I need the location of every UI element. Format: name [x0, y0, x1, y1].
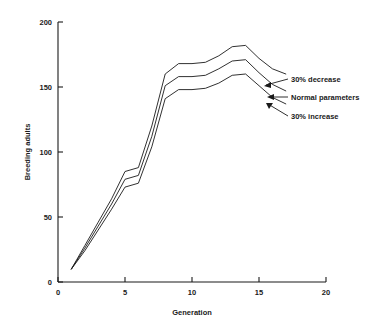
annotation-normal-parameters: Normal parameters: [267, 93, 359, 102]
y-axis-ticks: [58, 22, 63, 282]
axis-lines: [58, 22, 326, 282]
annotation-label-30-increase: 30% increase: [291, 112, 339, 121]
series-line-30-increase: [71, 74, 285, 269]
y-axis-title: Breeding adults: [23, 124, 32, 181]
x-axis-tick-labels: 0 5 10 15 20: [56, 288, 330, 297]
annotation-label-30-decrease: 30% decrease: [291, 75, 341, 84]
leader-arrow-normal: [267, 94, 274, 100]
y-tick-label-200: 200: [39, 18, 52, 27]
x-axis-ticks: [58, 277, 326, 282]
x-tick-label-10: 10: [188, 288, 196, 297]
y-tick-label-0: 0: [48, 278, 52, 287]
series-group: [71, 45, 285, 269]
x-axis-title: Generation: [172, 308, 212, 317]
x-tick-label-0: 0: [56, 288, 60, 297]
annotation-30-increase: 30% increase: [266, 103, 339, 121]
annotation-label-normal: Normal parameters: [291, 93, 359, 102]
series-line-normal: [71, 60, 285, 269]
leader-arrow-30-decrease: [264, 82, 271, 88]
series-line-30-decrease: [71, 45, 285, 269]
line-chart: 200 150 100 50 0 0 5 10 15 20 Generation…: [0, 0, 386, 323]
y-tick-label-50: 50: [44, 213, 52, 222]
x-tick-label-5: 5: [123, 288, 127, 297]
annotations-group: 30% decrease Normal parameters 30% incre…: [264, 75, 359, 121]
chart-figure: 200 150 100 50 0 0 5 10 15 20 Generation…: [0, 0, 386, 323]
y-tick-label-100: 100: [39, 148, 52, 157]
y-tick-label-150: 150: [39, 83, 52, 92]
x-tick-label-15: 15: [255, 288, 263, 297]
y-axis-tick-labels: 200 150 100 50 0: [39, 18, 52, 287]
x-tick-label-20: 20: [322, 288, 330, 297]
